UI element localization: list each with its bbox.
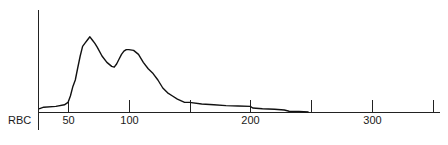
rbc-histogram-chart: 50100200300 RBC xyxy=(0,0,448,145)
x-axis-tick-labels: 50100200300 xyxy=(62,114,381,126)
x-tick-label: 50 xyxy=(62,114,74,126)
x-tick-label: 100 xyxy=(120,114,138,126)
x-tick-label: 200 xyxy=(241,114,259,126)
histogram-curve xyxy=(39,37,309,112)
x-tick-label: 300 xyxy=(363,114,381,126)
y-axis-label: RBC xyxy=(8,114,31,126)
x-axis-ticks xyxy=(69,100,434,112)
